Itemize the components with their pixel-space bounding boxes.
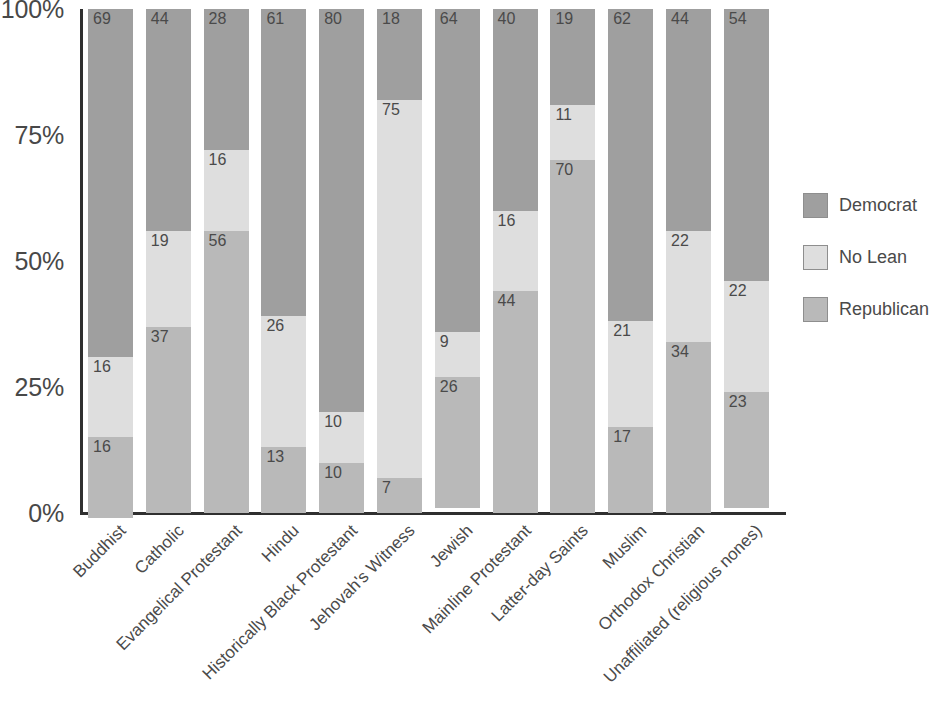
- x-tick-label: Catholic: [131, 521, 189, 579]
- bar-segment-democrat[interactable]: 19: [550, 9, 595, 105]
- bar-segment-democrat[interactable]: 80: [319, 9, 364, 412]
- bar-segment-value: 26: [266, 318, 284, 334]
- legend-label: Democrat: [839, 196, 917, 214]
- y-axis: 100%75%50%25%0%: [0, 0, 74, 524]
- bar-segment-no-lean[interactable]: 22: [666, 231, 711, 342]
- bar-segment-value: 44: [498, 293, 516, 309]
- bar-group[interactable]: 281656: [204, 9, 249, 513]
- bar-segment-democrat[interactable]: 44: [666, 9, 711, 231]
- bar-segment-value: 44: [671, 11, 689, 27]
- bar-segment-republican[interactable]: 37: [146, 327, 191, 513]
- bar-segment-no-lean[interactable]: 19: [146, 231, 191, 327]
- legend-swatch: [803, 297, 828, 322]
- bar-segment-no-lean[interactable]: 16: [204, 150, 249, 231]
- bar-segment-value: 54: [729, 11, 747, 27]
- legend-swatch: [803, 245, 828, 270]
- bar-group[interactable]: 18757: [377, 9, 422, 513]
- bar-group[interactable]: 542223: [724, 9, 769, 513]
- bar-segment-value: 10: [324, 465, 342, 481]
- bar-segment-republican[interactable]: 16: [88, 437, 133, 518]
- bar-group[interactable]: 64926: [435, 9, 480, 513]
- x-tick-label: Hindu: [258, 521, 304, 567]
- bar-segment-value: 16: [93, 439, 111, 455]
- bar-segment-democrat[interactable]: 18: [377, 9, 422, 100]
- bar-segment-no-lean[interactable]: 16: [88, 357, 133, 438]
- bar-segment-no-lean[interactable]: 26: [261, 316, 306, 447]
- x-tick-label: Buddhist: [70, 521, 131, 582]
- bar-segment-value: 56: [209, 233, 227, 249]
- x-tick-label: Muslim: [599, 521, 651, 573]
- bar-segment-value: 69: [93, 11, 111, 27]
- bar-segment-democrat[interactable]: 61: [261, 9, 306, 316]
- bar-segment-republican[interactable]: 17: [608, 427, 653, 513]
- x-tick-label: Mainline Protestant: [418, 521, 535, 638]
- bar-segment-democrat[interactable]: 44: [146, 9, 191, 231]
- bar-segment-value: 19: [151, 233, 169, 249]
- y-tick-label: 75%: [15, 123, 64, 148]
- bar-group[interactable]: 622117: [608, 9, 653, 513]
- bar-segment-value: 26: [440, 379, 458, 395]
- bar-segment-no-lean[interactable]: 9: [435, 332, 480, 377]
- x-tick-label: Orthodox Christian: [594, 521, 708, 635]
- bar-segment-value: 18: [382, 11, 400, 27]
- bar-segment-democrat[interactable]: 40: [493, 9, 538, 211]
- bar-segment-value: 28: [209, 11, 227, 27]
- bar-segment-republican[interactable]: 56: [204, 231, 249, 513]
- bar-segment-republican[interactable]: 26: [435, 377, 480, 508]
- stacked-bar-chart: 100%75%50%25%0% 691616441937281656612613…: [0, 0, 938, 724]
- y-tick-label: 25%: [15, 375, 64, 400]
- bar-segment-democrat[interactable]: 28: [204, 9, 249, 150]
- bar-segment-value: 44: [151, 11, 169, 27]
- bar-segment-value: 34: [671, 344, 689, 360]
- bar-segment-no-lean[interactable]: 21: [608, 321, 653, 427]
- legend-item[interactable]: Republican: [803, 296, 929, 322]
- bar-segment-republican[interactable]: 34: [666, 342, 711, 513]
- bar-segment-value: 70: [555, 162, 573, 178]
- bar-group[interactable]: 442234: [666, 9, 711, 513]
- bar-segment-value: 62: [613, 11, 631, 27]
- bar-segment-no-lean[interactable]: 22: [724, 281, 769, 392]
- y-tick-label: 100%: [1, 0, 64, 22]
- y-tick-label: 50%: [15, 249, 64, 274]
- bar-segment-democrat[interactable]: 69: [88, 9, 133, 357]
- bar-segment-democrat[interactable]: 54: [724, 9, 769, 281]
- x-tick-label: Jewish: [427, 521, 478, 572]
- bar-segment-republican[interactable]: 44: [493, 291, 538, 513]
- legend-item[interactable]: Democrat: [803, 192, 917, 218]
- bar-segment-republican[interactable]: 70: [550, 160, 595, 513]
- bar-group[interactable]: 441937: [146, 9, 191, 513]
- bar-segment-republican[interactable]: 13: [261, 447, 306, 513]
- bar-segment-value: 10: [324, 414, 342, 430]
- bar-segment-value: 75: [382, 102, 400, 118]
- bar-segment-value: 22: [729, 283, 747, 299]
- bar-group[interactable]: 691616: [88, 9, 133, 513]
- bar-segment-value: 16: [93, 359, 111, 375]
- bar-segment-no-lean[interactable]: 16: [493, 211, 538, 292]
- bar-segment-value: 61: [266, 11, 284, 27]
- bar-segment-democrat[interactable]: 62: [608, 9, 653, 321]
- legend-label: Republican: [839, 300, 929, 318]
- bar-group[interactable]: 401644: [493, 9, 538, 513]
- bar-segment-value: 19: [555, 11, 573, 27]
- bar-segment-no-lean[interactable]: 11: [550, 105, 595, 160]
- legend-item[interactable]: No Lean: [803, 244, 907, 270]
- bar-group[interactable]: 612613: [261, 9, 306, 513]
- bar-segment-value: 17: [613, 429, 631, 445]
- bar-group[interactable]: 191170: [550, 9, 595, 513]
- bar-segment-value: 22: [671, 233, 689, 249]
- bar-segment-value: 16: [209, 152, 227, 168]
- bar-segment-no-lean[interactable]: 10: [319, 412, 364, 462]
- bar-segment-value: 80: [324, 11, 342, 27]
- legend-label: No Lean: [839, 248, 907, 266]
- bar-segment-republican[interactable]: 23: [724, 392, 769, 508]
- bar-segment-value: 64: [440, 11, 458, 27]
- bar-segment-no-lean[interactable]: 75: [377, 100, 422, 478]
- bar-segment-value: 40: [498, 11, 516, 27]
- bar-group[interactable]: 801010: [319, 9, 364, 513]
- x-tick-label: Latter-day Saints: [488, 521, 593, 626]
- bar-segment-republican[interactable]: 10: [319, 463, 364, 513]
- x-tick-label: Jehovah's Witness: [306, 521, 420, 635]
- bar-segment-democrat[interactable]: 64: [435, 9, 480, 332]
- bar-segment-value: 9: [440, 334, 449, 350]
- bar-segment-republican[interactable]: 7: [377, 478, 422, 513]
